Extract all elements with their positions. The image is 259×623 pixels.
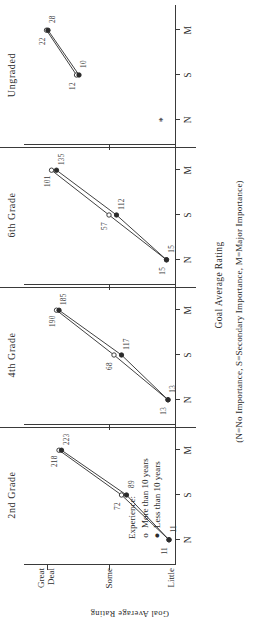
legend-marker-icon: o <box>139 532 152 539</box>
chart-panel: 4th GradeNSM136819013117185 <box>0 285 214 425</box>
x-tick-label: M <box>183 306 193 314</box>
y-tick-label: GreatDeal <box>36 568 56 588</box>
x-tick-label: S <box>183 72 193 77</box>
x-tick-label: S <box>183 492 193 497</box>
panel-separator <box>0 427 196 428</box>
x-tick-label: N <box>183 396 193 403</box>
x-tick-label: N <box>183 256 193 263</box>
y-axis-tick <box>109 425 110 430</box>
panel-container: 2nd GradeNSM11722181189223Experience:oMo… <box>0 5 214 565</box>
chart-panel: UngradedNSM*12221028 <box>0 5 214 145</box>
x-tick-label: M <box>183 26 193 34</box>
y-axis-tick <box>109 145 110 150</box>
chart-panel: 2nd GradeNSM11722181189223Experience:oMo… <box>0 425 214 565</box>
legend-item: ●Less than 10 years <box>151 458 164 539</box>
x-tick-label: M <box>183 166 193 174</box>
x-tick-label: S <box>183 212 193 217</box>
y-axis-title: Goal Average Rating <box>40 607 220 621</box>
rotated-figure: Goal Average Rating GreatDealSomeLittle … <box>0 0 259 623</box>
x-axis-title: Goal Average Rating <box>214 5 224 565</box>
x-tick-label: N <box>183 116 193 123</box>
chart-panel: 6th GradeNSM155710115112135 <box>0 145 214 285</box>
legend-title: Experience: <box>126 458 139 539</box>
series-lines <box>0 285 184 425</box>
legend-marker-icon: ● <box>151 532 164 539</box>
legend-item-label: Less than 10 years <box>151 461 164 528</box>
panel-separator <box>0 287 196 288</box>
y-axis-tick <box>109 565 110 570</box>
y-axis-tick <box>109 285 110 290</box>
chart-note: (N=No Importance, S=Secondary Importance… <box>234 0 244 623</box>
x-tick-label: S <box>183 352 193 357</box>
y-axis-tick <box>47 565 48 570</box>
y-tick-label: Little <box>166 568 176 588</box>
y-axis-tick-labels: GreatDealSomeLittle <box>0 565 214 609</box>
series-lines <box>0 5 184 145</box>
legend-item: oMore than 10 years <box>139 458 152 539</box>
legend-item-label: More than 10 years <box>139 458 152 528</box>
y-tick-label: Some <box>104 568 114 589</box>
chart-figure: Goal Average Rating GreatDealSomeLittle … <box>0 0 259 623</box>
series-lines <box>0 145 184 285</box>
legend: Experience:oMore than 10 years●Less than… <box>126 458 164 539</box>
panel-separator <box>0 147 196 148</box>
x-tick-label: N <box>183 536 193 543</box>
x-tick-label: M <box>183 446 193 454</box>
figure-frame: Goal Average Rating GreatDealSomeLittle … <box>0 0 259 623</box>
